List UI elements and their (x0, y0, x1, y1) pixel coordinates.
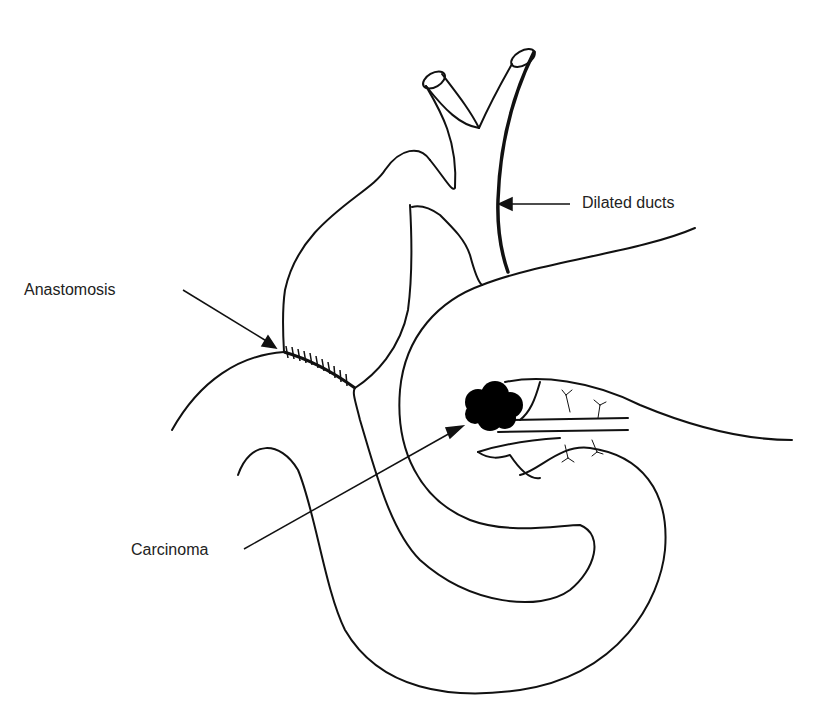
biliary-anatomy-diagram (0, 0, 834, 724)
anastomosis-sutures (284, 346, 355, 388)
bile-ducts (420, 45, 538, 272)
duodenum (172, 228, 695, 693)
label-carcinoma: Carcinoma (131, 541, 208, 559)
label-dilated-ducts: Dilated ducts (582, 194, 675, 212)
anastomosis-arrow (183, 290, 276, 348)
dilated-ducts-arrow (499, 198, 570, 210)
pancreas (478, 379, 792, 478)
jejunal-limb (283, 151, 482, 388)
label-anastomosis: Anastomosis (24, 281, 116, 299)
carcinoma-arrow (244, 426, 463, 549)
carcinoma-tumor (465, 381, 523, 431)
